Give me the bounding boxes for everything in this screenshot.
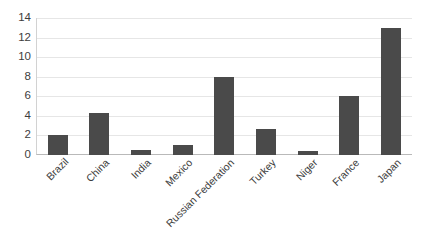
bar[interactable] [298, 151, 318, 155]
y-axis-tick-label: 8 [25, 71, 31, 83]
bar-slot [329, 18, 371, 155]
bar-slot [287, 18, 329, 155]
x-axis-category-label: India [69, 157, 154, 242]
bar[interactable] [89, 113, 109, 155]
bar-slot [120, 18, 162, 155]
x-axis-category-label: Brazil [44, 157, 70, 183]
y-axis-tick-label: 4 [25, 110, 31, 122]
bar-slot [79, 18, 121, 155]
bar[interactable] [381, 28, 401, 155]
x-axis-category-labels: BrazilChinaIndiaMexicoRussian Federation… [37, 157, 412, 247]
bar-slot [162, 18, 204, 155]
y-axis-tick-label: 0 [25, 149, 31, 161]
bar[interactable] [339, 96, 359, 155]
y-axis-tick-label: 12 [18, 32, 31, 44]
bars-layer [37, 18, 412, 155]
y-axis-tick-label: 14 [18, 12, 31, 24]
bar[interactable] [214, 77, 234, 155]
bar[interactable] [131, 150, 151, 155]
y-axis-tick-labels: 14121086420 [0, 18, 31, 155]
bar[interactable] [173, 145, 193, 155]
bar-slot [204, 18, 246, 155]
bar[interactable] [48, 135, 68, 155]
bar-slot [370, 18, 412, 155]
bar-chart: 14121086420 BrazilChinaIndiaMexicoRussia… [0, 0, 421, 249]
bar-slot [245, 18, 287, 155]
bar[interactable] [256, 129, 276, 155]
y-axis-tick-label: 6 [25, 91, 31, 103]
y-axis-tick-label: 10 [18, 51, 31, 63]
bar-slot [37, 18, 79, 155]
y-axis-tick-label: 2 [25, 130, 31, 142]
